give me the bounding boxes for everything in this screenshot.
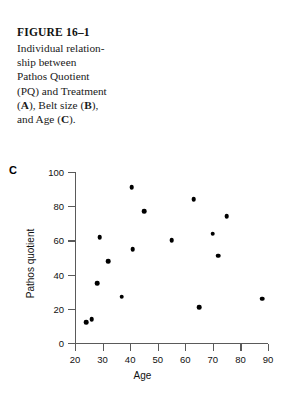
y-axis-tick <box>68 240 75 241</box>
data-point <box>260 296 265 301</box>
caption-line-5-mid: ), Belt size ( <box>29 99 84 111</box>
x-axis-tick <box>268 344 269 351</box>
data-point <box>95 281 100 286</box>
caption-line-3: Pathos Quotient <box>17 69 167 83</box>
data-point <box>224 214 229 219</box>
data-point <box>120 295 125 300</box>
figure-number-label: FIGURE 16–1 <box>17 26 167 38</box>
y-axis-tick-label: 40 <box>24 269 64 280</box>
y-axis-tick-label: 20 <box>24 303 64 314</box>
x-axis-tick-label: 70 <box>198 354 228 365</box>
x-axis-tick-label: 80 <box>225 354 255 365</box>
caption-line-2: ship between <box>17 55 167 69</box>
data-point <box>142 209 147 214</box>
caption-panel-ref-c: C <box>61 113 69 125</box>
caption-line-6-open: and Age ( <box>17 113 61 125</box>
x-axis-tick <box>213 344 214 351</box>
figure-caption-block: FIGURE 16–1 Individual relation- ship be… <box>17 26 167 126</box>
y-axis-tick <box>68 206 75 207</box>
caption-panel-ref-b: B <box>84 99 92 111</box>
caption-line-6: and Age (C). <box>17 112 167 126</box>
data-point <box>89 317 94 322</box>
data-point <box>191 197 196 202</box>
plot-area <box>75 172 268 343</box>
y-axis-tick <box>68 309 75 310</box>
x-axis-tick-label: 40 <box>115 354 145 365</box>
x-axis-tick-label: 20 <box>60 354 90 365</box>
x-axis-tick-label: 90 <box>253 354 283 365</box>
x-axis-tick-label: 50 <box>143 354 173 365</box>
figure-caption-text: Individual relation- ship between Pathos… <box>17 41 167 126</box>
data-point <box>84 320 89 325</box>
y-axis-tick <box>68 343 75 344</box>
data-point <box>98 235 103 240</box>
x-axis-tick <box>240 344 241 351</box>
x-axis-tick <box>103 344 104 351</box>
caption-line-5: (A), Belt size (B), <box>17 98 167 112</box>
y-axis-tick <box>68 275 75 276</box>
caption-panel-ref-a: A <box>21 99 29 111</box>
data-point <box>129 185 134 190</box>
caption-line-6-close: ). <box>69 113 76 125</box>
data-point <box>106 259 111 264</box>
x-axis-title: Age <box>0 370 285 381</box>
x-axis-tick <box>75 344 76 351</box>
y-axis-tick-label: 100 <box>24 167 64 178</box>
x-axis-tick-label: 60 <box>170 354 200 365</box>
y-axis-tick-label: 80 <box>24 201 64 212</box>
scatter-plot: Pathos quotient Age 02040608010020304050… <box>0 155 285 399</box>
data-point <box>169 238 174 243</box>
caption-line-4: (PQ) and Treatment <box>17 84 167 98</box>
y-axis-tick-label: 0 <box>24 338 64 349</box>
data-point <box>131 247 136 252</box>
figure-page: FIGURE 16–1 Individual relation- ship be… <box>0 0 285 399</box>
y-axis-tick-label: 60 <box>24 235 64 246</box>
data-point <box>211 231 216 236</box>
x-axis-tick <box>130 344 131 351</box>
x-axis-tick <box>158 344 159 351</box>
data-point <box>197 305 202 310</box>
y-axis-tick <box>68 172 75 173</box>
x-axis-tick <box>185 344 186 351</box>
data-point <box>216 253 221 258</box>
caption-line-1: Individual relation- <box>17 41 167 55</box>
x-axis-tick-label: 30 <box>88 354 118 365</box>
caption-line-5-close: ), <box>92 99 99 111</box>
